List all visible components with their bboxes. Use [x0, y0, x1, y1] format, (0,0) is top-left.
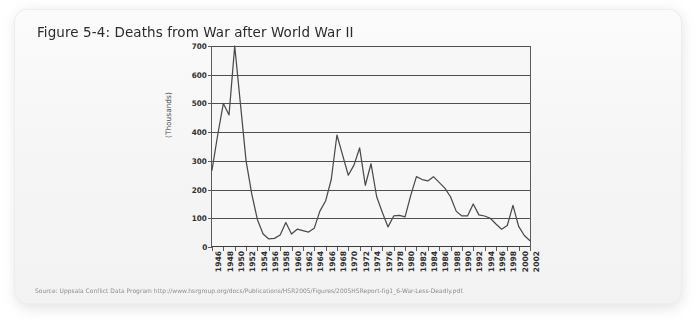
x-tick-label: 1994 — [487, 251, 496, 272]
x-tick-label: 1998 — [509, 251, 518, 272]
y-tick-mark — [208, 103, 212, 104]
page-title: Figure 5-4: Deaths from War after World … — [37, 24, 354, 40]
x-tick-label: 1956 — [271, 251, 280, 272]
y-axis-tick-labels: 0100200300400500600700 — [177, 46, 207, 247]
y-tick-label: 600 — [192, 70, 207, 79]
line-series-war-deaths — [212, 46, 530, 247]
figure-card: Figure 5-4: Deaths from War after World … — [14, 9, 682, 304]
x-tick-label: 1988 — [453, 251, 462, 272]
x-tick-label: 1964 — [316, 251, 325, 272]
x-tick-label: 1970 — [350, 251, 359, 272]
x-tick-label: 1950 — [237, 251, 246, 272]
gridline — [212, 46, 530, 47]
y-tick-label: 300 — [192, 156, 207, 165]
x-axis-tick-labels: 1946194819501952195419561958196019621964… — [211, 251, 529, 285]
y-tick-label: 400 — [192, 128, 207, 137]
gridline — [212, 161, 530, 162]
x-tick-label: 1972 — [362, 251, 371, 272]
gridline — [212, 75, 530, 76]
gridline — [212, 103, 530, 104]
y-tick-mark — [208, 46, 212, 47]
x-tick-mark — [530, 247, 531, 251]
gridline — [212, 218, 530, 219]
y-tick-label: 100 — [192, 214, 207, 223]
chart-container: (Thousands) 0100200300400500600700 19461… — [156, 46, 546, 286]
plot-area — [211, 46, 531, 247]
gridline — [212, 190, 530, 191]
x-tick-label: 1978 — [396, 251, 405, 272]
x-tick-label: 1948 — [226, 251, 235, 272]
x-tick-label: 1954 — [260, 251, 269, 272]
x-tick-label: 1984 — [430, 251, 439, 272]
x-tick-label: 1976 — [385, 251, 394, 272]
y-tick-label: 0 — [202, 243, 207, 252]
figure-page: Figure 5-4: Deaths from War after World … — [0, 0, 698, 327]
x-tick-label: 1980 — [407, 251, 416, 272]
y-tick-label: 200 — [192, 185, 207, 194]
y-tick-mark — [208, 75, 212, 76]
x-tick-label: 1966 — [328, 251, 337, 272]
source-caption: Source: Uppsala Conflict Data Program ht… — [35, 287, 464, 294]
x-tick-label: 1986 — [441, 251, 450, 272]
x-tick-label: 2000 — [521, 251, 530, 272]
x-tick-label: 1990 — [464, 251, 473, 272]
y-axis-title: (Thousands) — [164, 92, 173, 138]
y-tick-mark — [208, 132, 212, 133]
y-tick-label: 500 — [192, 99, 207, 108]
y-tick-mark — [208, 218, 212, 219]
y-tick-label: 700 — [192, 42, 207, 51]
y-tick-mark — [208, 161, 212, 162]
x-tick-label: 1992 — [475, 251, 484, 272]
gridline — [212, 132, 530, 133]
y-tick-mark — [208, 190, 212, 191]
x-tick-label: 1960 — [294, 251, 303, 272]
x-tick-label: 1958 — [282, 251, 291, 272]
x-tick-label: 1946 — [214, 251, 223, 272]
x-tick-label: 1982 — [419, 251, 428, 272]
x-tick-label: 1952 — [248, 251, 257, 272]
x-tick-label: 1996 — [498, 251, 507, 272]
x-tick-label: 1968 — [339, 251, 348, 272]
x-tick-label: 1974 — [373, 251, 382, 272]
x-tick-label: 2002 — [532, 251, 541, 272]
x-tick-label: 1962 — [305, 251, 314, 272]
